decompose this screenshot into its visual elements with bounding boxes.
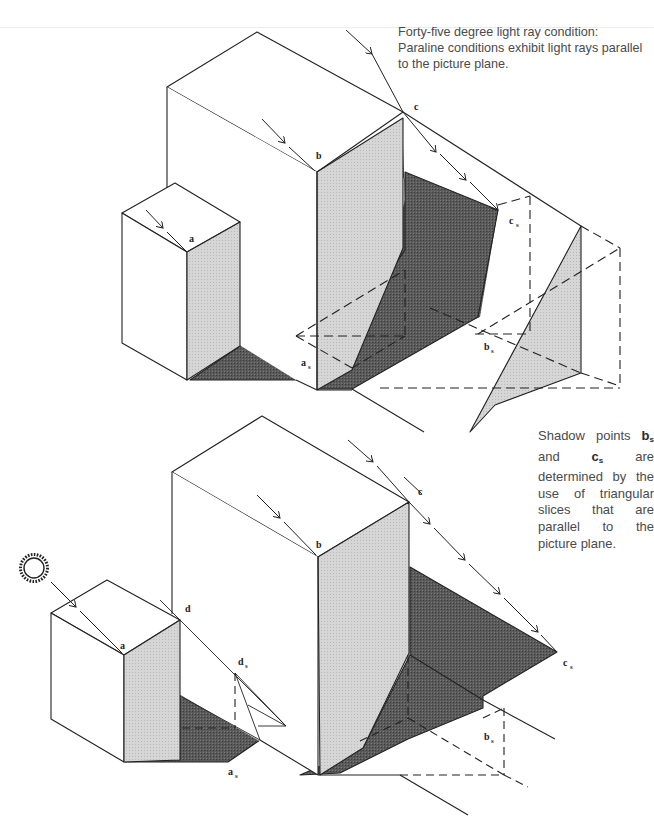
label-b: b (316, 150, 322, 161)
label-ds-sub-bottom: s (245, 662, 248, 670)
label-as: a (301, 357, 306, 368)
label-c-bottom: c (418, 486, 423, 497)
label-bs-sub-bottom: s (491, 737, 494, 745)
bottom-diagram (21, 388, 558, 815)
label-bs-bottom: b (484, 731, 490, 742)
label-bs-sub: s (491, 347, 494, 355)
label-cs-bottom: c (563, 657, 568, 668)
label-d-bottom: d (185, 603, 191, 614)
label-a-bottom: a (120, 640, 125, 651)
label-as-sub: s (308, 363, 311, 371)
sun-icon (21, 555, 48, 582)
label-cs-sub-bottom: s (570, 663, 573, 671)
label-c: c (414, 101, 419, 112)
label-cs: c (509, 215, 514, 226)
label-as-bottom: a (228, 766, 233, 777)
label-a: a (189, 233, 194, 244)
label-b-bottom: b (316, 539, 322, 550)
label-as-sub-bottom: s (235, 772, 238, 780)
shadow-diagrams: a b c a s b s c s (0, 0, 654, 838)
top-diagram (122, 30, 620, 432)
label-bs: b (484, 341, 490, 352)
label-cs-sub: s (516, 221, 519, 229)
label-ds-bottom: d (238, 656, 244, 667)
